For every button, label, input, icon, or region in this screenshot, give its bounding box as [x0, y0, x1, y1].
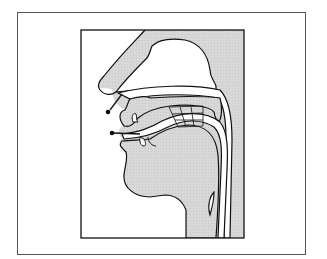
tongue: [120, 125, 218, 238]
airway-diagram: [0, 0, 327, 259]
arrow-head-icon: [106, 110, 111, 115]
arrow-head-icon: [110, 131, 115, 136]
